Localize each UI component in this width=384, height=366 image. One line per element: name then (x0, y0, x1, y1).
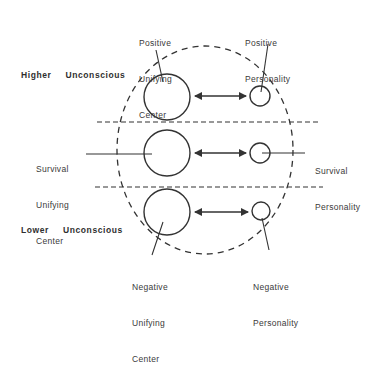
label-line: Personality (315, 201, 360, 213)
negative-personality-label: Negative Personality (253, 257, 298, 341)
negative-personality-circle (252, 202, 270, 220)
label-line: Unifying (139, 73, 172, 85)
label-line: Unifying (36, 199, 69, 211)
label-line: Negative (253, 281, 298, 293)
negative-center-leader-line (152, 222, 163, 255)
label-line: Survival (36, 163, 69, 175)
label-line: Personality (253, 317, 298, 329)
label-line: Personality (245, 73, 290, 85)
label-line: Center (139, 109, 172, 121)
survival-unifying-center-label: Survival Unifying Center (36, 139, 69, 259)
label-line: Negative (132, 281, 168, 293)
survival-unifying-center-circle (144, 130, 190, 176)
label-line: Positive (245, 37, 290, 49)
positive-personality-label: Positive Personality (245, 13, 290, 97)
higher-unconscious-label: Higher Unconscious (21, 70, 125, 80)
survival-personality-label: Survival Personality (315, 141, 360, 225)
label-line: Positive (139, 37, 172, 49)
label-line: Unifying (132, 317, 168, 329)
label-line: Center (36, 235, 69, 247)
label-line: Center (132, 353, 168, 365)
label-line: Survival (315, 165, 360, 177)
negative-unifying-center-circle (144, 189, 190, 235)
positive-unifying-center-label: Positive Unifying Center (139, 13, 172, 133)
negative-unifying-center-label: Negative Unifying Center (132, 257, 168, 366)
